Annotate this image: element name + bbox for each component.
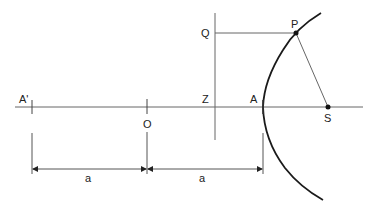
label-s: S [324, 112, 331, 124]
dimension-label-2: a [199, 172, 206, 184]
label-a-prime: A' [19, 93, 28, 105]
ps-line [296, 33, 328, 107]
point-s [326, 105, 331, 110]
point-p [294, 31, 299, 36]
label-o: O [143, 118, 152, 130]
label-a: A [250, 93, 258, 105]
dimension-label-1: a [85, 172, 92, 184]
label-p: P [291, 18, 298, 30]
label-z: Z [202, 93, 209, 105]
label-q: Q [201, 27, 210, 39]
parabola-diagram: A' O Z A S Q P a a [0, 0, 375, 210]
